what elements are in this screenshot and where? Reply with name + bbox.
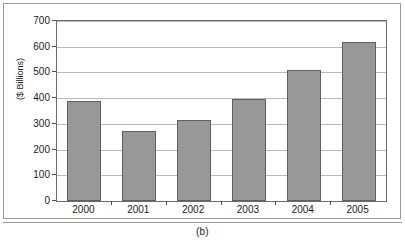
plot-area xyxy=(56,20,387,202)
bar-2004 xyxy=(287,70,321,201)
y-axis-tick-label: 100 xyxy=(8,169,50,180)
x-axis-tick-mark xyxy=(111,201,112,205)
x-axis-tick-mark xyxy=(275,201,276,205)
y-axis-tick-label: 400 xyxy=(8,92,50,103)
figure-container: ($ Billions) (b) 01002003004005006007002… xyxy=(0,0,405,243)
gridline xyxy=(57,175,386,176)
x-axis-tick-label: 2001 xyxy=(127,204,149,215)
bar-2000 xyxy=(67,101,101,201)
bar-2003 xyxy=(232,99,266,201)
y-axis-tick-mark xyxy=(52,200,56,201)
y-axis-tick-label: 300 xyxy=(8,117,50,128)
gridline xyxy=(57,47,386,48)
gridline xyxy=(57,98,386,99)
y-axis-tick-mark xyxy=(52,123,56,124)
y-axis-tick-mark xyxy=(52,20,56,21)
gridline xyxy=(57,150,386,151)
caption-divider xyxy=(3,222,402,223)
y-axis-tick-mark xyxy=(52,97,56,98)
y-axis-tick-mark xyxy=(52,71,56,72)
x-axis-tick-mark xyxy=(166,201,167,205)
x-axis-tick-label: 2005 xyxy=(346,204,368,215)
x-axis-tick-mark xyxy=(221,201,222,205)
bar-2002 xyxy=(177,120,211,201)
x-axis-tick-mark xyxy=(330,201,331,205)
y-axis-tick-mark xyxy=(52,174,56,175)
bar-2001 xyxy=(122,131,156,201)
y-axis-tick-label: 600 xyxy=(8,40,50,51)
bar-2005 xyxy=(342,42,376,201)
x-axis-tick-label: 2004 xyxy=(292,204,314,215)
y-axis-tick-mark xyxy=(52,46,56,47)
gridline xyxy=(57,124,386,125)
x-axis-tick-label: 2002 xyxy=(182,204,204,215)
y-axis-tick-label: 200 xyxy=(8,143,50,154)
y-axis-tick-label: 500 xyxy=(8,66,50,77)
x-axis-tick-label: 2003 xyxy=(237,204,259,215)
gridline xyxy=(57,21,386,22)
y-axis-tick-label: 0 xyxy=(8,195,50,206)
y-axis-tick-label: 700 xyxy=(8,15,50,26)
y-axis-tick-mark xyxy=(52,149,56,150)
x-axis-tick-label: 2000 xyxy=(72,204,94,215)
figure-caption: (b) xyxy=(0,226,405,237)
gridline xyxy=(57,72,386,73)
